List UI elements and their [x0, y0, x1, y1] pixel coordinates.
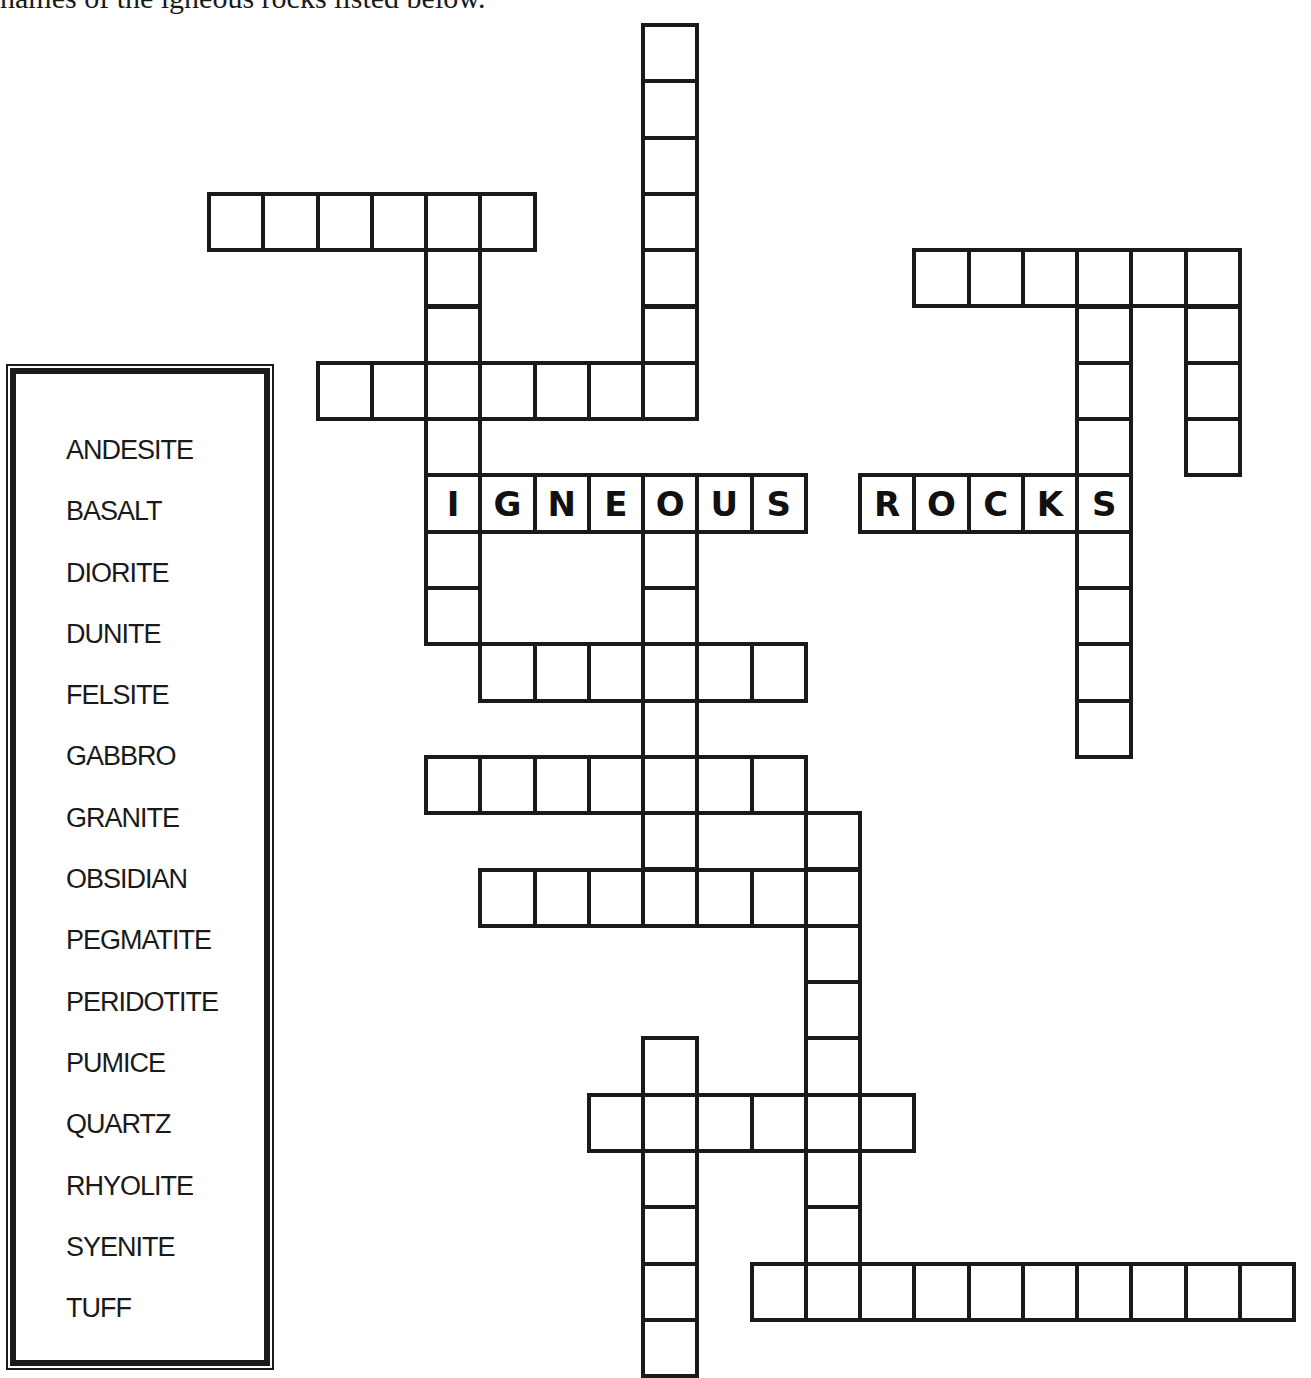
answer-cell[interactable] [641, 642, 699, 702]
answer-cell[interactable] [1184, 417, 1242, 477]
answer-cell[interactable] [1075, 699, 1133, 759]
answer-cell[interactable] [912, 1262, 970, 1322]
answer-cell[interactable] [261, 192, 319, 252]
answer-cell[interactable] [478, 755, 536, 815]
answer-cell[interactable] [370, 192, 428, 252]
answer-cell[interactable] [587, 1093, 645, 1153]
answer-cell[interactable] [370, 361, 428, 421]
answer-cell[interactable] [641, 1036, 699, 1096]
answer-cell[interactable] [804, 924, 862, 984]
answer-cell[interactable] [587, 642, 645, 702]
answer-cell[interactable] [695, 642, 753, 702]
answer-cell[interactable] [641, 192, 699, 252]
answer-cell[interactable] [750, 755, 808, 815]
answer-cell[interactable] [587, 755, 645, 815]
given-letter-cell: O [641, 473, 699, 533]
answer-cell[interactable] [641, 586, 699, 646]
answer-cell[interactable] [695, 868, 753, 928]
answer-cell[interactable] [1075, 305, 1133, 365]
answer-cell[interactable] [478, 361, 536, 421]
answer-cell[interactable] [1184, 248, 1242, 308]
answer-cell[interactable] [750, 1262, 808, 1322]
answer-cell[interactable] [804, 980, 862, 1040]
answer-cell[interactable] [424, 530, 482, 590]
answer-cell[interactable] [478, 868, 536, 928]
answer-cell[interactable] [641, 755, 699, 815]
answer-cell[interactable] [1021, 1262, 1079, 1322]
answer-cell[interactable] [316, 192, 374, 252]
answer-cell[interactable] [641, 361, 699, 421]
answer-cell[interactable] [316, 361, 374, 421]
answer-cell[interactable] [858, 1093, 916, 1153]
answer-cell[interactable] [1021, 248, 1079, 308]
answer-cell[interactable] [641, 1093, 699, 1153]
answer-cell[interactable] [641, 1262, 699, 1322]
answer-cell[interactable] [1184, 1262, 1242, 1322]
answer-cell[interactable] [1184, 361, 1242, 421]
answer-cell[interactable] [641, 305, 699, 365]
answer-cell[interactable] [641, 1318, 699, 1378]
answer-cell[interactable] [207, 192, 265, 252]
given-letter-cell: S [1075, 473, 1133, 533]
answer-cell[interactable] [804, 868, 862, 928]
answer-cell[interactable] [641, 136, 699, 196]
answer-cell[interactable] [804, 1149, 862, 1209]
answer-cell[interactable] [750, 642, 808, 702]
answer-cell[interactable] [424, 248, 482, 308]
answer-cell[interactable] [695, 1093, 753, 1153]
crossword-grid: IGNEOUSROCKS [0, 0, 1311, 1378]
answer-cell[interactable] [641, 530, 699, 590]
answer-cell[interactable] [804, 1036, 862, 1096]
answer-cell[interactable] [1075, 248, 1133, 308]
answer-cell[interactable] [858, 1262, 916, 1322]
answer-cell[interactable] [533, 361, 591, 421]
given-letter-cell: E [587, 473, 645, 533]
given-letter-cell: U [695, 473, 753, 533]
answer-cell[interactable] [587, 361, 645, 421]
answer-cell[interactable] [1075, 586, 1133, 646]
answer-cell[interactable] [424, 417, 482, 477]
answer-cell[interactable] [804, 1262, 862, 1322]
answer-cell[interactable] [1075, 1262, 1133, 1322]
answer-cell[interactable] [1075, 642, 1133, 702]
answer-cell[interactable] [912, 248, 970, 308]
answer-cell[interactable] [478, 192, 536, 252]
answer-cell[interactable] [967, 1262, 1025, 1322]
answer-cell[interactable] [641, 23, 699, 83]
answer-cell[interactable] [424, 192, 482, 252]
answer-cell[interactable] [478, 642, 536, 702]
answer-cell[interactable] [641, 1149, 699, 1209]
answer-cell[interactable] [641, 811, 699, 871]
answer-cell[interactable] [1184, 305, 1242, 365]
answer-cell[interactable] [1075, 530, 1133, 590]
given-letter-cell: K [1021, 473, 1079, 533]
answer-cell[interactable] [1129, 1262, 1187, 1322]
given-letter-cell: N [533, 473, 591, 533]
answer-cell[interactable] [967, 248, 1025, 308]
answer-cell[interactable] [750, 868, 808, 928]
answer-cell[interactable] [641, 699, 699, 759]
answer-cell[interactable] [424, 361, 482, 421]
answer-cell[interactable] [533, 868, 591, 928]
given-letter-cell: I [424, 473, 482, 533]
answer-cell[interactable] [641, 1205, 699, 1265]
answer-cell[interactable] [804, 811, 862, 871]
answer-cell[interactable] [533, 755, 591, 815]
answer-cell[interactable] [695, 755, 753, 815]
answer-cell[interactable] [587, 868, 645, 928]
answer-cell[interactable] [1075, 361, 1133, 421]
given-letter-cell: S [750, 473, 808, 533]
answer-cell[interactable] [804, 1205, 862, 1265]
answer-cell[interactable] [424, 586, 482, 646]
answer-cell[interactable] [804, 1093, 862, 1153]
answer-cell[interactable] [424, 305, 482, 365]
answer-cell[interactable] [1075, 417, 1133, 477]
answer-cell[interactable] [1238, 1262, 1296, 1322]
answer-cell[interactable] [750, 1093, 808, 1153]
answer-cell[interactable] [641, 248, 699, 308]
answer-cell[interactable] [424, 755, 482, 815]
answer-cell[interactable] [641, 79, 699, 139]
answer-cell[interactable] [1129, 248, 1187, 308]
answer-cell[interactable] [533, 642, 591, 702]
answer-cell[interactable] [641, 868, 699, 928]
